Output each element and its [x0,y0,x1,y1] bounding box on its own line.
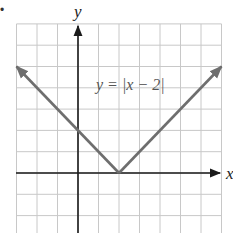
y-axis-label: y [72,2,82,21]
equation-label: y = |x − 2| [94,76,165,94]
x-axis-label: x [225,164,233,183]
graph-canvas: • y x y = |x − 2| [0,0,233,233]
bullet-mark: • [0,3,4,17]
grid-lines [17,24,222,233]
